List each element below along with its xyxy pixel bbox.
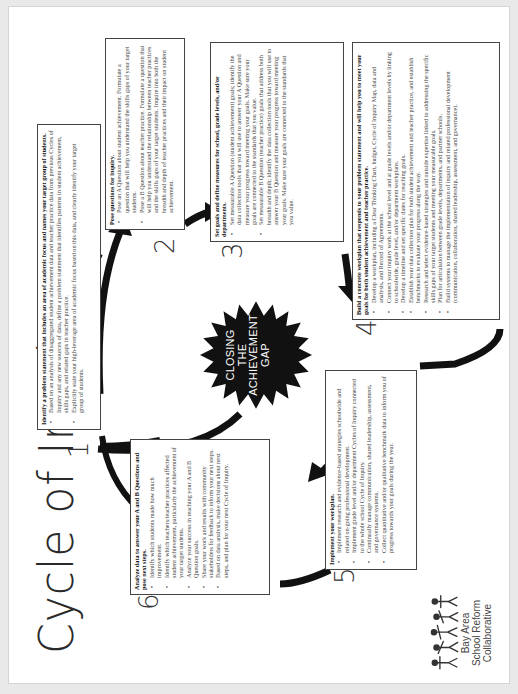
step-3-bullet: Set measurable B Question (teacher pract… <box>257 47 294 225</box>
step-5-box: Implement your workplan. Implement resea… <box>325 370 417 570</box>
rotated-page: Cycle of Inquiry Identify a problem stat… <box>0 0 518 694</box>
step-6-bullet: Identify which teachers/teacher practice… <box>163 444 185 578</box>
step-6-bullet: Share your work and results with communi… <box>200 444 215 578</box>
center-badge-line: GAP <box>260 299 272 411</box>
dancing-figures-logo-icon <box>428 586 462 680</box>
step-5-bullet: Implement research and evidence-based st… <box>335 375 350 553</box>
step-1-bullet: Based on an analysis of disaggregated st… <box>47 129 69 413</box>
center-badge-line: ACHIEVEMENT <box>248 299 260 411</box>
step-5-bullet: Continually manage communication, shared… <box>365 375 380 553</box>
logo-line: Bay Area <box>460 588 471 678</box>
logo-line: School Reform <box>471 588 482 678</box>
step-6-bullet: Based on data analysis, make decisions a… <box>214 444 229 578</box>
step-6-box: Analyze data to answer your A and B Ques… <box>130 439 270 595</box>
step-6-bullet: Identify which students made how much im… <box>148 444 163 578</box>
step-5-number: 5 <box>330 567 360 584</box>
step-4-bullet: Establish your data collection plan for … <box>407 47 422 303</box>
step-1-box: Identify a problem statement that includ… <box>37 124 101 430</box>
step-6-number: 6 <box>134 593 164 610</box>
step-2-box: Pose questions for inquiry. Pose an A Qu… <box>105 38 185 230</box>
center-badge-line: CLOSING <box>225 299 237 411</box>
step-4-number: 4 <box>352 319 382 336</box>
step-2-bullet: Pose a B Question about teacher practice… <box>138 43 175 213</box>
step-4-bullet: Develop a workplan, including a Clear Th… <box>370 47 385 303</box>
step-5-bullet: Implement grade level and/or department … <box>350 375 365 553</box>
step-4-bullet: Build systems to manage the implementati… <box>444 47 459 303</box>
step-5-bullet: Collect quantitative and/or qualitative … <box>380 375 395 553</box>
step-4-bullet: Research and select evidence-based strat… <box>422 47 437 303</box>
center-badge: CLOSING THE ACHIEVEMENT GAP <box>225 299 271 411</box>
step-4-bullet: Connect your inquiry work at the school … <box>385 47 400 303</box>
step-1-bullet: Explicitly state your high-leverage area… <box>70 129 85 413</box>
logo-org-name: Bay Area School Reform Collaborative <box>460 588 493 678</box>
step-2-heading: Pose questions for inquiry. <box>108 43 115 225</box>
step-4-box: Build a concrete workplan that responds … <box>352 42 500 320</box>
step-6-bullet: Analyze your success in reaching your A … <box>185 444 200 578</box>
step-3-heading: Set goals and define measures for school… <box>213 47 228 237</box>
step-3-bullet: Set measurable A Question (student achie… <box>228 47 258 225</box>
step-6-heading: Analyze data to answer your A and B Ques… <box>133 444 148 590</box>
step-3-box: Set goals and define measures for school… <box>210 42 344 242</box>
step-1-number: 1 <box>64 441 94 458</box>
step-4-heading: Build a concrete workplan that responds … <box>355 47 370 315</box>
step-4-bullet: Develop a timeline and set specific date… <box>399 47 406 303</box>
step-1-heading: Identify a problem statement that includ… <box>40 129 47 425</box>
step-5-heading: Implement your workplan. <box>328 375 335 565</box>
step-4-bullet: Plan for articulation between grade leve… <box>436 47 443 303</box>
step-2-bullet: Pose an A Question about student achieve… <box>115 43 137 213</box>
step-3-number: 3 <box>218 242 248 259</box>
step-2-number: 2 <box>150 237 180 254</box>
logo-line: Collaborative <box>482 588 493 678</box>
